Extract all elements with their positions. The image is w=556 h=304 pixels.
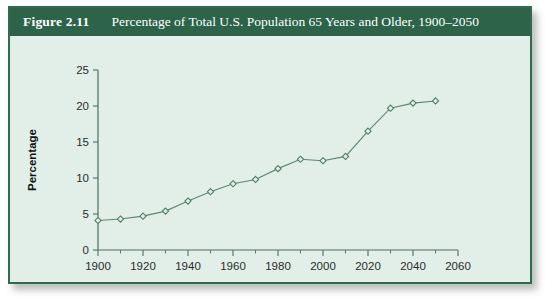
y-tick-label: 0 <box>83 244 89 256</box>
data-point-marker <box>185 198 191 204</box>
series-line-path <box>98 101 436 221</box>
x-tick-label: 2040 <box>400 260 426 272</box>
data-point-marker <box>410 100 416 106</box>
data-point-marker <box>117 216 123 222</box>
y-axis-title-text: Percentage <box>26 129 38 191</box>
chart-plot-region: 0510152025 19001920194019601980200020202… <box>10 36 530 282</box>
data-point-marker <box>140 213 146 219</box>
line-chart: 0510152025 19001920194019601980200020202… <box>10 36 530 282</box>
figure-container: Figure 2.11Percentage of Total U.S. Popu… <box>8 6 532 284</box>
data-point-marker <box>207 189 213 195</box>
data-point-marker <box>297 156 303 162</box>
figure-caption-bar: Figure 2.11Percentage of Total U.S. Popu… <box>10 8 530 36</box>
x-tick-label: 1960 <box>220 260 246 272</box>
x-tick-label: 1980 <box>265 260 291 272</box>
y-tick-label: 20 <box>76 100 89 112</box>
chart-axes <box>98 70 458 250</box>
y-tick-label: 15 <box>76 136 89 148</box>
y-tick-label: 5 <box>83 208 89 220</box>
data-point-marker <box>275 166 281 172</box>
chart-series <box>95 98 439 224</box>
figure-number-label: Figure 2.11 <box>10 8 89 36</box>
data-point-marker <box>95 217 101 223</box>
data-point-marker <box>252 176 258 182</box>
figure-title: Percentage of Total U.S. Population 65 Y… <box>89 8 479 36</box>
y-axis-ticks: 0510152025 <box>76 64 98 256</box>
y-tick-label: 10 <box>76 172 89 184</box>
x-axis-ticks: 190019201940196019802000202020402060 <box>85 250 471 272</box>
y-tick-label: 25 <box>76 64 89 76</box>
x-tick-label: 1900 <box>85 260 111 272</box>
y-axis-title: Percentage <box>26 129 38 191</box>
x-tick-label: 2020 <box>355 260 381 272</box>
data-point-marker <box>230 181 236 187</box>
data-point-marker <box>432 98 438 104</box>
x-tick-label: 2060 <box>445 260 471 272</box>
x-tick-label: 2000 <box>310 260 336 272</box>
series-markers <box>95 98 439 224</box>
data-point-marker <box>162 208 168 214</box>
data-point-marker <box>320 158 326 164</box>
x-tick-label: 1920 <box>130 260 156 272</box>
x-tick-label: 1940 <box>175 260 201 272</box>
